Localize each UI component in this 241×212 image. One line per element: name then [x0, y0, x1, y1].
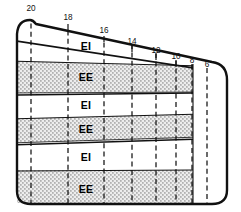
contour-label-12: 12: [151, 46, 161, 55]
band-fill-ee-3: [10, 170, 200, 208]
contour-label-6: 6: [205, 60, 210, 69]
contour-label-18: 18: [63, 13, 73, 22]
contour-label-20: 20: [26, 4, 36, 13]
band-fill-ei-3: [10, 138, 200, 172]
figure-root: 20 18 16 14 12 10 8 6 EI EE EI EE EI EE: [0, 0, 241, 212]
band-label-ee-3: EE: [79, 183, 94, 195]
cross-section-diagram: 20 18 16 14 12 10 8 6 EI EE EI EE EI EE: [0, 0, 241, 212]
band-label-ee-2: EE: [79, 123, 94, 135]
contour-label-14: 14: [127, 37, 137, 46]
band-label-ei-2: EI: [81, 99, 92, 111]
contour-label-8: 8: [190, 56, 195, 65]
band-label-ee-1: EE: [79, 71, 94, 83]
contour-label-16: 16: [99, 26, 109, 35]
contour-label-10: 10: [171, 52, 181, 61]
band-label-ei-1: EI: [81, 40, 92, 52]
band-label-ei-3: EI: [81, 151, 92, 163]
